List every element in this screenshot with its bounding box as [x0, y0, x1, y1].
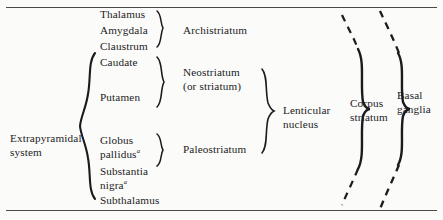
structure-globus: Globus [100, 134, 133, 148]
structure-caudate: Caudate [100, 56, 138, 70]
group-neostriatum: Neostriatum (or striatum) [183, 66, 241, 93]
group-paleostriatum: Paleostriatum [183, 143, 246, 157]
brace-neostriatum [155, 56, 169, 108]
brace-paleostriatum-left [155, 133, 168, 167]
group-corpus-striatum-line2: striatum [350, 111, 388, 125]
structure-nigra: nigraa [100, 179, 127, 193]
group-basal-ganglia: Basal ganglia [397, 89, 431, 116]
group-archistriatum: Archistriatum [183, 24, 247, 38]
dashed-line-corpus-striatum-top [341, 14, 365, 50]
dashed-line-corpus-striatum-bottom [341, 168, 365, 206]
structure-pallidus: pallidusa [100, 148, 140, 162]
structure-claustrum: Claustrum [100, 40, 148, 54]
bottom-rule [6, 210, 437, 211]
group-lenticular-nucleus-line1: Lenticular [283, 104, 330, 118]
brace-extrapyramidal-system [78, 52, 98, 200]
brace-lenticular-nucleus [258, 68, 276, 154]
structure-putamen: Putamen [100, 91, 140, 105]
group-neostriatum-line2: (or striatum) [183, 80, 241, 94]
dashed-line-basal-ganglia-bottom [379, 164, 405, 210]
group-lenticular-nucleus-line2: nucleus [283, 118, 330, 132]
group-corpus-striatum-line1: Corpus [350, 97, 388, 111]
dashed-line-basal-ganglia-top [379, 10, 405, 54]
structure-subthalamus: Subthalamus [100, 194, 159, 208]
basal-ganglia-figure: Extrapyramidal system Thalamus Amygdala … [0, 0, 443, 220]
group-basal-ganglia-line2: ganglia [397, 103, 431, 117]
brace-archistriatum [155, 10, 168, 48]
structure-substantia: Substantia [100, 165, 148, 179]
label-extrapyramidal-system: Extrapyramidal system [10, 132, 86, 159]
group-corpus-striatum: Corpus striatum [350, 97, 388, 124]
group-lenticular-nucleus: Lenticular nucleus [283, 104, 330, 131]
group-basal-ganglia-line1: Basal [397, 89, 431, 103]
structure-amygdala: Amygdala [100, 24, 148, 38]
top-rule [6, 7, 437, 8]
group-neostriatum-line1: Neostriatum [183, 66, 241, 80]
structure-thalamus: Thalamus [100, 8, 145, 22]
